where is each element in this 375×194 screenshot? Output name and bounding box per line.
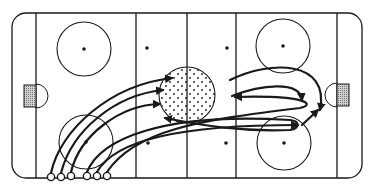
rink-canvas <box>0 0 375 194</box>
right-goal-crease <box>325 83 337 107</box>
player-marker <box>57 173 64 180</box>
player-marker <box>103 172 110 179</box>
player-marker <box>83 172 90 179</box>
left-goal-net <box>24 85 36 107</box>
skating-path-arrow <box>61 90 163 173</box>
neutral-zone-dot <box>146 141 150 145</box>
right-goal-net <box>337 84 349 106</box>
faceoff-dot-top-left <box>82 47 86 51</box>
hockey-rink-diagram: Hockey rink drill diagram <box>0 0 375 194</box>
center-circle-target-zone <box>159 67 215 123</box>
faceoff-dot-top-right <box>281 44 285 48</box>
player-marker <box>47 173 54 180</box>
skating-path-arrow <box>302 110 318 125</box>
neutral-zone-dot <box>225 46 229 50</box>
faceoff-dot-bottom-right <box>282 141 286 145</box>
neutral-zone-dot <box>224 141 228 145</box>
neutral-zone-dot <box>145 46 149 50</box>
left-goal-crease <box>36 84 48 108</box>
player-marker <box>93 172 100 179</box>
player-marker <box>67 172 74 179</box>
